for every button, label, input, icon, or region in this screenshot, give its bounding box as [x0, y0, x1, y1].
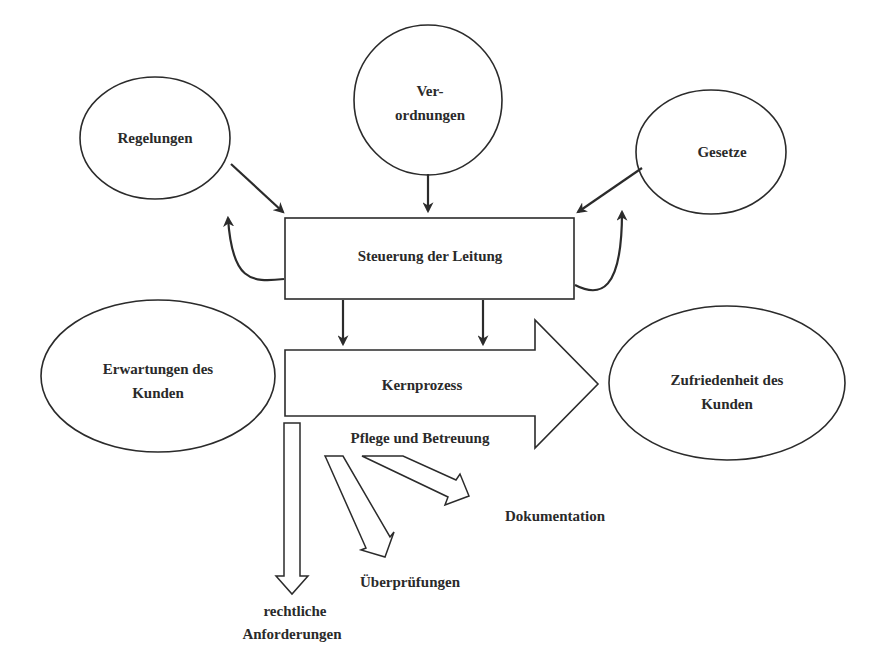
node-verordnungen: Ver- ordnungen: [354, 25, 502, 175]
node-erwartungen: Erwartungen des Kunden: [41, 300, 275, 452]
node-gesetze: Gesetze: [636, 90, 786, 214]
erwartungen-label-line2: Kunden: [132, 385, 184, 401]
ueberpruefungen-label: Überprüfungen: [360, 574, 461, 590]
hollow-arrow-dokumentation: [362, 456, 469, 505]
verordnungen-ellipse: [354, 25, 502, 175]
verordnungen-label-line1: Ver-: [416, 83, 443, 99]
node-steuerung: Steuerung der Leitung: [285, 218, 574, 299]
hollow-arrow-ueberpruefungen: [325, 456, 394, 557]
node-kernprozess: Kernprozess Pflege und Betreuung: [285, 320, 598, 448]
verordnungen-label-line2: ordnungen: [395, 107, 466, 123]
rechtliche-label-line1: rechtliche: [263, 603, 326, 619]
regelungen-label: Regelungen: [118, 130, 194, 146]
pflege-label: Pflege und Betreuung: [351, 430, 490, 446]
curved-arrow-to-gesetze: [575, 212, 622, 290]
rechtliche-label-line2: Anforderungen: [242, 626, 342, 642]
hollow-arrow-rechtliche: [276, 423, 308, 594]
dokumentation-label: Dokumentation: [505, 508, 606, 524]
zufriedenheit-label-line2: Kunden: [701, 396, 753, 412]
curved-arrow-to-regelungen: [228, 218, 284, 280]
arrow-gesetze-to-steuerung: [578, 168, 642, 212]
node-regelungen: Regelungen: [80, 77, 230, 199]
steuerung-label: Steuerung der Leitung: [358, 248, 503, 264]
zufriedenheit-label-line1: Zufriedenheit des: [671, 372, 784, 388]
node-zufriedenheit: Zufriedenheit des Kunden: [609, 306, 845, 460]
kernprozess-label: Kernprozess: [382, 377, 463, 393]
gesetze-label: Gesetze: [697, 144, 746, 160]
erwartungen-label-line1: Erwartungen des: [103, 361, 214, 377]
arrow-regelungen-to-steuerung: [231, 164, 283, 212]
process-diagram: Regelungen Ver- ordnungen Gesetze Steuer…: [0, 0, 889, 671]
